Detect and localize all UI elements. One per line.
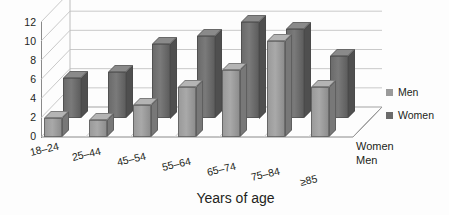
bar-side (126, 65, 133, 118)
legend-label-men: Men (398, 86, 418, 98)
bar-men-5 (267, 41, 285, 137)
bar-side (329, 80, 336, 137)
bar-men-6 (311, 87, 329, 137)
bar-side (196, 80, 203, 137)
bar-face (267, 41, 285, 137)
bar-side (215, 29, 222, 118)
bar-side (170, 37, 177, 119)
bar-face (311, 87, 329, 137)
legend: Men Women (386, 86, 434, 132)
bar-side (81, 71, 88, 118)
bar-side (285, 34, 292, 137)
bar-side (240, 63, 247, 137)
bar-face (89, 120, 107, 137)
bar-men-1 (89, 120, 107, 137)
x-axis-title-text: Years of age (174, 190, 274, 206)
legend-item-men: Men (386, 86, 434, 98)
bar-men-3 (178, 87, 196, 137)
bar-face (108, 72, 126, 118)
bar-men-0 (44, 118, 62, 137)
bar-men-4 (222, 70, 240, 137)
plot-area: 12 10 8 6 4 2 0 18–2425–4445–5455–6465–7… (0, 0, 449, 215)
depth-label-men: Men (356, 154, 377, 166)
legend-item-women: Women (386, 109, 434, 121)
legend-label-women: Women (398, 109, 434, 121)
men-swatch-icon (386, 89, 393, 96)
bar-side (304, 22, 311, 118)
bar-women-1 (108, 72, 126, 118)
depth-label-women: Women (356, 140, 394, 152)
bar-side (348, 49, 355, 118)
bar-face (44, 118, 62, 137)
bar-face (178, 87, 196, 137)
bar-side (259, 15, 266, 119)
women-swatch-icon (386, 112, 393, 119)
bar-face (133, 105, 151, 137)
bar-chart-3d: 12 10 8 6 4 2 0 18–2425–4445–5455–6465–7… (0, 0, 449, 215)
bar-men-2 (133, 105, 151, 137)
x-axis-title: Years of age (0, 190, 449, 206)
bar-face (222, 70, 240, 137)
